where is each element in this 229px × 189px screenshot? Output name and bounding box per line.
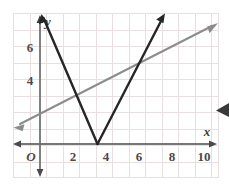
x-axis-left-arrowhead bbox=[13, 141, 21, 148]
x-axis-right-arrowhead bbox=[209, 141, 217, 148]
coordinate-plane: y x O 6 4 2 4 6 8 10 bbox=[0, 0, 229, 189]
linear-left-arrowhead bbox=[14, 124, 25, 131]
absolute-value-right-arrowhead bbox=[156, 14, 165, 24]
x-axis-label: x bbox=[203, 124, 211, 139]
x-axis bbox=[13, 141, 217, 148]
x-tick-label-4: 4 bbox=[103, 149, 110, 164]
y-tick-label-4: 4 bbox=[27, 73, 34, 88]
y-axis-bottom-arrowhead bbox=[37, 169, 44, 177]
y-tick-label-6: 6 bbox=[27, 40, 34, 55]
linear-function-graph bbox=[14, 23, 219, 131]
linear-right-arrowhead bbox=[207, 23, 218, 33]
x-tick-label-2: 2 bbox=[70, 149, 77, 164]
origin-label: O bbox=[26, 149, 36, 164]
x-tick-label-6: 6 bbox=[136, 149, 143, 164]
x-tick-label-10: 10 bbox=[198, 149, 211, 164]
x-tick-label-8: 8 bbox=[169, 149, 176, 164]
graph-figure: y x O 6 4 2 4 6 8 10 bbox=[0, 0, 229, 189]
absolute-value-function-graph bbox=[39, 14, 165, 145]
